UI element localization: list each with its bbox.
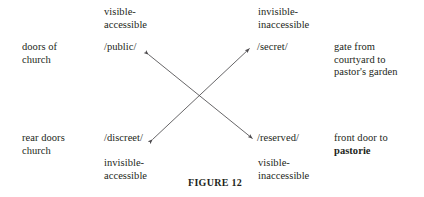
- gloss-right-bottom-term: pastorie: [334, 145, 371, 156]
- feature-label-bottom-left: invisible- accessible: [104, 157, 147, 182]
- feature-label-bottom-right: visible- inaccessible: [258, 157, 309, 182]
- term-reserved: /reserved/: [257, 132, 299, 145]
- semiotic-square-figure: /reserved/ (bottom-right) --> /secret/ (…: [0, 0, 424, 197]
- gloss-right-top: gate from courtyard to pastor's garden: [334, 41, 398, 79]
- term-public: /public/: [104, 41, 136, 54]
- gloss-right-bottom-prefix: front door to: [334, 132, 388, 143]
- relation-arrows: /reserved/ (bottom-right) --> /secret/ (…: [0, 0, 424, 197]
- figure-caption: FIGURE 12: [188, 177, 242, 188]
- term-discreet: /discreet/: [104, 132, 143, 145]
- arrow-discreet-secret: [153, 49, 250, 140]
- feature-label-top-right: invisible- inaccessible: [258, 6, 309, 31]
- gloss-right-bottom: front door topastorie: [334, 132, 388, 157]
- feature-label-top-left: visible- accessible: [104, 6, 147, 31]
- gloss-left-bottom: rear doors church: [22, 132, 65, 157]
- gloss-left-top: doors of church: [22, 41, 57, 66]
- term-secret: /secret/: [257, 41, 288, 54]
- arrow-public-reserved: [149, 55, 253, 139]
